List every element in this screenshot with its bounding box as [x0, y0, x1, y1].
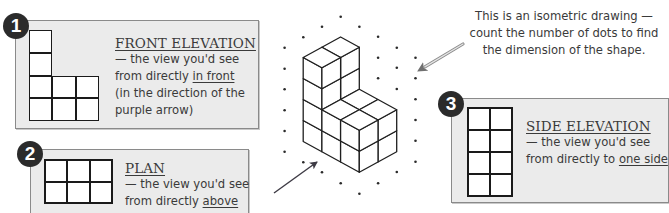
grid-dot [377, 182, 380, 185]
grid-dot [377, 77, 380, 80]
grid-dot [321, 25, 324, 28]
grid-dot [414, 98, 417, 101]
grid-dot [414, 119, 417, 122]
grid-dot [283, 46, 286, 49]
grid-dot [414, 160, 417, 163]
grid-dot [283, 67, 286, 70]
grid-dot [396, 88, 399, 91]
grid-dot [414, 139, 417, 142]
grid-dot [414, 56, 417, 59]
grid-dot [358, 25, 361, 28]
grid-dot [339, 15, 342, 18]
grid-dot [283, 88, 286, 91]
grid-dot [302, 161, 305, 164]
grid-dot [339, 182, 342, 185]
grid-dot [414, 77, 417, 80]
note-pointer-arrow [418, 44, 463, 71]
grid-dot [283, 109, 286, 112]
grid-dot [302, 36, 305, 39]
grid-dot [358, 193, 361, 196]
isometric-drawing [0, 0, 669, 213]
grid-dot [377, 35, 380, 38]
grid-dot [321, 171, 324, 174]
front-view-arrow [274, 162, 317, 193]
grid-dot [396, 171, 399, 174]
isometric-shape [303, 37, 397, 172]
grid-dot [283, 150, 286, 153]
grid-dot [396, 67, 399, 70]
grid-dot [396, 46, 399, 49]
grid-dot [283, 130, 286, 133]
grid-dot [377, 56, 380, 59]
